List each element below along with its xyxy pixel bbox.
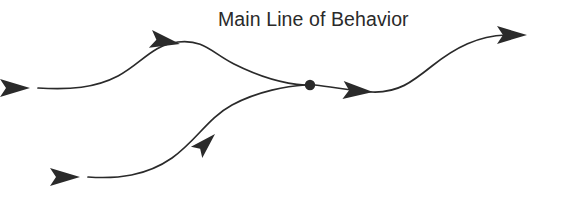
upper-branch-start-arrow: [0, 79, 30, 97]
convergence-point-dot: [305, 80, 315, 90]
lower-branch-path: [88, 85, 305, 178]
lower-branch-start-arrow: [50, 168, 80, 186]
upper-branch-path: [38, 42, 305, 89]
arrow-head-group: [0, 26, 527, 186]
main-line-trough-arrow: [342, 81, 373, 101]
lower-branch-rising-arrow: [191, 128, 221, 158]
diagram-title-label: Main Line of Behavior: [218, 8, 409, 30]
behavior-flow-diagram: Main Line of Behavior: [0, 0, 562, 199]
diagram-canvas: Main Line of Behavior: [0, 0, 562, 199]
